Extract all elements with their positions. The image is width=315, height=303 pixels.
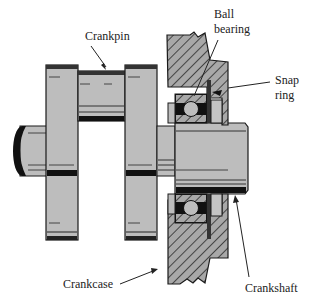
crankpin (78, 71, 125, 121)
crankshaft-bearing-diagram: Crankpin Ball bearing Snap ring Crankcas… (0, 0, 315, 303)
label-snap-ring-line2: ring (275, 88, 294, 102)
label-ball-bearing-line1: Ball (214, 7, 235, 21)
label-snap-ring-line1: Snap (275, 73, 299, 87)
label-ball-bearing-line2: bearing (214, 22, 250, 36)
label-crankcase: Crankcase (63, 277, 113, 291)
ball-bearing-top (168, 94, 207, 123)
left-crank-web (46, 65, 78, 240)
main-shaft (157, 123, 248, 194)
left-shaft-stub (13, 126, 50, 176)
label-crankpin: Crankpin (85, 29, 130, 43)
right-crank-web (125, 65, 157, 240)
label-crankshaft: Crankshaft (245, 281, 298, 295)
